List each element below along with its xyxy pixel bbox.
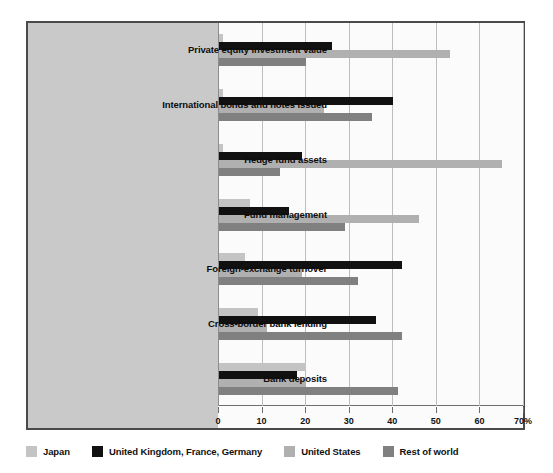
x-tick-50 xyxy=(436,407,437,413)
bar xyxy=(219,253,245,261)
bar xyxy=(219,277,358,285)
legend-item[interactable]: United States xyxy=(284,446,360,457)
category-label: Cross-border bank lending xyxy=(208,318,327,329)
x-tick-0 xyxy=(218,407,219,413)
gridline-70 xyxy=(523,23,524,406)
x-tick-60 xyxy=(479,407,480,413)
x-tick-label-60: 60 xyxy=(474,416,484,426)
category-label: International bonds and notes issued xyxy=(162,99,327,110)
legend-item[interactable]: Japan xyxy=(26,446,70,457)
legend-item[interactable]: Rest of world xyxy=(383,446,459,457)
x-axis-baseline xyxy=(218,405,523,406)
bar xyxy=(219,223,345,231)
x-tick-label-50: 50 xyxy=(431,416,441,426)
category-label: Hedge fund assets xyxy=(244,154,327,165)
chart-panel: 010203040506070% Private equity investme… xyxy=(26,21,525,430)
x-tick-label-20: 20 xyxy=(300,416,310,426)
x-tick-label-10: 10 xyxy=(257,416,267,426)
chart-root: 010203040506070% Private equity investme… xyxy=(0,0,553,473)
category-label: Bank deposits xyxy=(263,373,327,384)
bar xyxy=(219,144,223,152)
category-label-band xyxy=(28,23,218,428)
x-tick-label-0: 0 xyxy=(215,416,220,426)
legend-label: Japan xyxy=(43,446,70,457)
x-tick-40 xyxy=(392,407,393,413)
category-label: Fund management xyxy=(244,209,327,220)
bar xyxy=(219,58,306,66)
x-tick-label-70: 70% xyxy=(514,416,532,426)
bar xyxy=(219,387,398,395)
x-tick-30 xyxy=(349,407,350,413)
bar xyxy=(219,332,402,340)
legend-item[interactable]: United Kingdom, France, Germany xyxy=(92,446,262,457)
chart-legend: JapanUnited Kingdom, France, GermanyUnit… xyxy=(26,446,480,457)
x-tick-70 xyxy=(523,407,524,413)
x-tick-label-30: 30 xyxy=(344,416,354,426)
bar xyxy=(219,199,250,207)
x-tick-20 xyxy=(305,407,306,413)
bar xyxy=(219,89,223,97)
legend-swatch-icon xyxy=(92,446,103,457)
x-tick-10 xyxy=(262,407,263,413)
x-tick-label-40: 40 xyxy=(387,416,397,426)
bar xyxy=(219,34,223,42)
legend-label: United States xyxy=(301,446,360,457)
legend-swatch-icon xyxy=(383,446,394,457)
gridline-50 xyxy=(436,23,437,406)
category-label: Private equity investment value xyxy=(188,44,327,55)
legend-swatch-icon xyxy=(284,446,295,457)
legend-swatch-icon xyxy=(26,446,37,457)
gridline-60 xyxy=(479,23,480,406)
bar xyxy=(219,363,306,371)
legend-label: United Kingdom, France, Germany xyxy=(109,446,262,457)
plot-area: 010203040506070% xyxy=(218,23,523,428)
bar xyxy=(219,168,280,176)
legend-label: Rest of world xyxy=(400,446,459,457)
bar xyxy=(219,113,372,121)
bar xyxy=(219,308,258,316)
category-label: Foreign-exchange turnover xyxy=(207,263,328,274)
